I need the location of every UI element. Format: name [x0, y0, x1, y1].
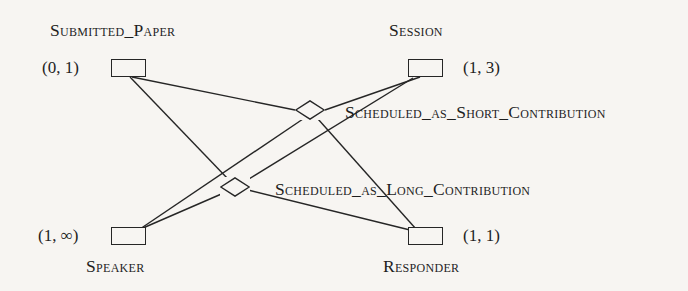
cardinality-label-session: (1, 3)	[463, 59, 500, 76]
entity-box-responder[interactable]	[408, 227, 443, 245]
edge-speaker-short	[140, 119, 303, 229]
entity-box-speaker[interactable]	[111, 227, 146, 245]
entity-label-speaker: Speaker	[86, 258, 145, 276]
diamond-shape	[296, 101, 324, 119]
entity-label-session: Session	[389, 22, 443, 40]
edge-responder-short	[318, 119, 416, 229]
edge-speaker-long	[143, 192, 226, 228]
relationship-label-scheduled-as-short-contribution: Scheduled_as_Short_Contribution	[345, 104, 606, 122]
edge-layer	[0, 0, 688, 291]
cardinality-label-submitted-paper: (0, 1)	[42, 59, 79, 76]
entity-box-submitted-paper[interactable]	[111, 59, 146, 77]
edge-session-long	[244, 78, 413, 182]
relationship-label-scheduled-as-long-contribution: Scheduled_as_Long_Contribution	[275, 181, 530, 199]
entity-label-responder: Responder	[383, 258, 459, 276]
cardinality-label-responder: (1, 1)	[463, 227, 500, 244]
diamond-shape	[221, 178, 249, 196]
entity-box-session[interactable]	[408, 59, 443, 77]
relationship-diamond-scheduled-as-short-contribution[interactable]	[295, 100, 325, 120]
er-diagram-canvas: Submitted_Paper Session Speaker Responde…	[0, 0, 688, 291]
edge-paper-long	[130, 77, 228, 179]
cardinality-label-speaker: (1, ∞)	[38, 227, 78, 244]
relationship-diamond-scheduled-as-long-contribution[interactable]	[220, 177, 250, 197]
entity-label-submitted-paper: Submitted_Paper	[50, 22, 175, 40]
